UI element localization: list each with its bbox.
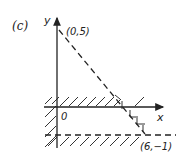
point-label-0-5: (0,5) — [66, 26, 90, 37]
inequality-region-diagram: (c) — [0, 0, 184, 162]
x-axis-label: x — [156, 111, 164, 124]
hatch-left-of-y-axis — [45, 106, 56, 147]
point-label-6-minus-1: (6,−1) — [140, 141, 172, 152]
panel-label: (c) — [12, 19, 28, 33]
dashed-line-x-plus-y-5 — [59, 30, 145, 134]
origin-label: 0 — [61, 111, 67, 122]
y-axis-label: y — [43, 14, 51, 27]
hatch-below-y-minus-1 — [48, 137, 139, 146]
hatch-above-x-axis — [45, 97, 144, 106]
